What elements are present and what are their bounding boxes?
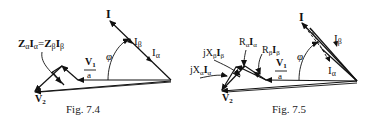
current-i-arrow xyxy=(110,21,171,80)
figure-7-5: I Iβ Iα φ V1 a V2 RαIα RβIβ jXβIβ jXαIα … xyxy=(189,10,357,115)
label-i-beta: Iβ xyxy=(334,32,342,46)
z-beta-drop-arrow xyxy=(62,66,78,80)
v2-arrow xyxy=(35,81,171,92)
r-alpha-drop-arrow xyxy=(236,67,241,68)
v2-double-line xyxy=(226,83,357,92)
label-i: I xyxy=(299,10,304,24)
drop-seg-3 xyxy=(241,68,266,80)
label-v1-over-a: V1 a xyxy=(84,56,96,80)
caption-fig-7-4: Fig. 7.4 xyxy=(66,103,100,115)
caption-fig-7-5: Fig. 7.5 xyxy=(272,103,306,115)
svg-text:a: a xyxy=(87,70,91,80)
label-i: I xyxy=(106,7,111,21)
drop-cross-line xyxy=(52,72,64,85)
jx-alpha-pointer xyxy=(200,75,227,78)
label-r-beta-i-beta: RβIβ xyxy=(262,44,280,57)
label-jx-beta-i-beta: jXβIβ xyxy=(202,47,224,60)
jx-beta-drop-line xyxy=(222,66,245,90)
phasor-diagrams: I Iβ Iα φ V1 a V2 ZαIα=ZβIβ Fig. 7.4 xyxy=(0,0,374,123)
dashed-parallelogram-1 xyxy=(302,23,322,49)
label-v2: V2 xyxy=(35,93,46,106)
label-v2: V2 xyxy=(222,92,233,105)
label-impedance-drop: ZαIα=ZβIβ xyxy=(18,37,64,51)
label-i-beta: Iβ xyxy=(134,35,142,49)
label-v1-over-a: V1 a xyxy=(275,57,287,81)
label-i-alpha: Iα xyxy=(328,64,337,78)
v2-double-line xyxy=(40,82,171,92)
svg-text:V1: V1 xyxy=(85,56,96,69)
v2-arrow xyxy=(222,81,357,91)
label-r-alpha-i-alpha: RαIα xyxy=(239,36,257,49)
figure-7-4: I Iβ Iα φ V1 a V2 ZαIα=ZβIβ Fig. 7.4 xyxy=(18,7,171,115)
r-beta-pointer xyxy=(259,54,262,74)
svg-text:a: a xyxy=(278,71,282,81)
label-phi: φ xyxy=(106,50,112,62)
drop-side-line xyxy=(51,66,62,73)
r-alpha-pointer xyxy=(244,50,246,66)
svg-text:V1: V1 xyxy=(276,57,287,70)
dashed-parallelogram-2 xyxy=(310,28,329,61)
label-phi: φ xyxy=(297,50,303,62)
label-jx-alpha-i-alpha: jXαIα xyxy=(189,64,212,77)
label-i-alpha: Iα xyxy=(152,46,161,60)
